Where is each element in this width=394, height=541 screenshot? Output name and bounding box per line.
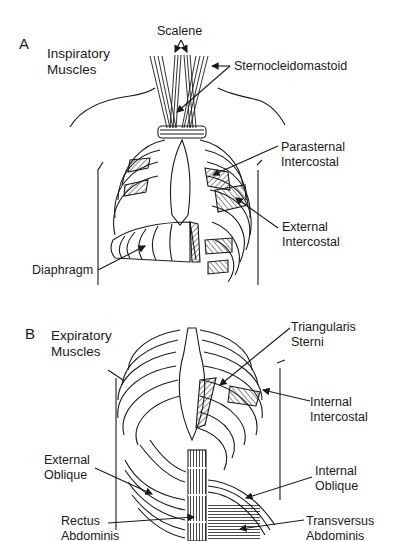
panel-b-drawing (108, 328, 285, 541)
label-diaphragm: Diaphragm (32, 263, 93, 278)
panel-a-title-line1: Inspiratory (47, 46, 110, 62)
label-external-intercostal-line2: Intercostal (282, 235, 340, 250)
label-internal-intercostal-line2: Intercostal (310, 410, 368, 425)
label-triangularis-line2: Sterni (291, 335, 356, 350)
label-internal-oblique-line2: Oblique (315, 479, 358, 494)
label-external-oblique-line1: External (44, 453, 90, 468)
label-transversus-line1: Transversus (306, 514, 374, 529)
label-rectus-abdominis: Rectus Abdominis (61, 514, 119, 541)
label-transversus-line2: Abdominis (306, 529, 374, 541)
respiratory-muscles-diagram: A Inspiratory Muscles Scalene Sternoclei… (0, 0, 394, 541)
label-triangularis-line1: Triangularis (291, 320, 356, 335)
label-internal-intercostal-line1: Internal (310, 395, 368, 410)
panel-a-title: Inspiratory Muscles (47, 46, 110, 78)
label-external-oblique-line2: Oblique (44, 468, 90, 483)
label-sternocleidomastoid: Sternocleidomastoid (234, 59, 347, 74)
label-internal-intercostal: Internal Intercostal (310, 395, 368, 425)
label-parasternal-line1: Parasternal (281, 140, 345, 155)
panel-a-title-line2: Muscles (47, 62, 110, 78)
label-transversus-abdominis: Transversus Abdominis (306, 514, 374, 541)
label-rectus-line2: Abdominis (61, 529, 119, 541)
label-parasternal-line2: Intercostal (281, 155, 345, 170)
panel-b-letter: B (25, 325, 35, 342)
panel-b-title-line1: Expiratory (51, 328, 112, 344)
label-external-intercostal: External Intercostal (282, 220, 340, 250)
label-parasternal-intercostal: Parasternal Intercostal (281, 140, 345, 170)
label-triangularis-sterni: Triangularis Sterni (291, 320, 356, 350)
panel-b-title-line2: Muscles (51, 344, 112, 360)
label-scalene: Scalene (157, 24, 202, 39)
panel-a-letter: A (19, 35, 29, 52)
label-internal-oblique: Internal Oblique (315, 464, 358, 494)
label-external-oblique: External Oblique (44, 453, 90, 483)
panel-a-drawing (70, 55, 285, 285)
label-external-intercostal-line1: External (282, 220, 340, 235)
label-internal-oblique-line1: Internal (315, 464, 358, 479)
panel-b-title: Expiratory Muscles (51, 328, 112, 360)
label-rectus-line1: Rectus (61, 514, 119, 529)
